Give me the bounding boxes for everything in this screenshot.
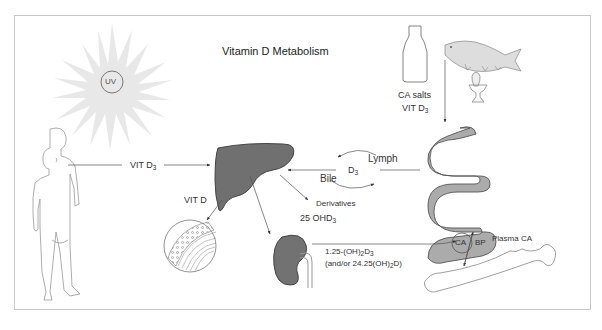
plasma-ca-label: Plasma CA xyxy=(492,235,532,243)
milk-bottle-icon xyxy=(403,26,427,82)
bp-label: BP xyxy=(475,239,486,247)
vit-d-tissue-label: VIT D xyxy=(184,196,207,205)
human-figure-icon xyxy=(33,128,80,300)
kidney-product-label-2: (and/or 24.25(OH)2D) xyxy=(325,260,402,268)
bile-label: Bile xyxy=(320,174,337,184)
d3-label: D3 xyxy=(348,166,358,175)
arrow-liver-to-kidney xyxy=(250,176,270,234)
diagram-title: Vitamin D Metabolism xyxy=(222,45,329,57)
arrow-liver-to-derivatives xyxy=(280,175,308,200)
kidney-icon xyxy=(274,235,312,288)
skin-vit-d3-label: VIT D3 xyxy=(130,161,156,170)
ca-label: CA xyxy=(455,239,466,247)
muscle-tissue-icon xyxy=(164,220,216,272)
food-label-vit-d3: VIT D3 xyxy=(402,104,428,113)
uv-label: UV xyxy=(105,78,116,86)
lymph-label: Lymph xyxy=(368,154,398,164)
food-label-ca-salts: CA salts xyxy=(398,91,431,100)
fish-icon xyxy=(445,41,521,72)
egg-cup-icon xyxy=(469,72,487,102)
sun-icon xyxy=(52,23,172,150)
derivatives-label: Derivatives xyxy=(316,200,356,208)
kidney-product-label-1: 1.25-(OH)2D3 xyxy=(325,248,374,256)
25-ohd3-label: 25 OHD3 xyxy=(300,214,336,223)
